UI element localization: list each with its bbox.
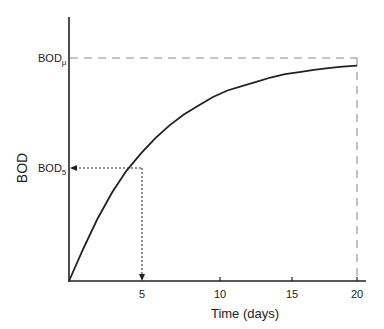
tick-label-10: 10 [214,288,226,300]
tick-label-5: 5 [139,288,145,300]
x-tick-labels: 5 10 15 20 [139,288,363,300]
x-axis-title: Time (days) [211,306,279,321]
arrow-left-icon [70,165,77,171]
bod5-label: BOD5 [38,162,67,177]
bod-ultimate-label: BODμ [38,52,67,67]
tick-label-15: 15 [286,288,298,300]
bod-chart: 5 10 15 20 Time (days) BOD BODμ BOD5 [0,0,384,329]
bod-curve [69,66,357,281]
tick-label-20: 20 [351,288,363,300]
y-axis-title: BOD [14,153,30,183]
arrow-down-icon [139,274,145,281]
